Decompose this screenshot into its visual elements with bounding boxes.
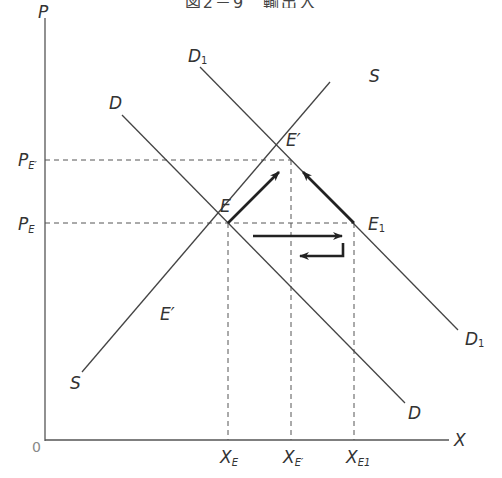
label-d-bottom: D [408, 403, 421, 423]
label-eprime-lower: E′ [160, 304, 175, 324]
x-axis-label: X [453, 430, 466, 450]
label-s-bottom: S [70, 373, 81, 393]
tick-label-pe: PE [18, 214, 35, 235]
demand-curve-d [122, 115, 405, 403]
tick-label-xe: XE [219, 447, 239, 468]
tick-label-pe-prime: PE′ [18, 150, 38, 171]
y-axis-label: P [38, 2, 49, 22]
label-point-eprime: E′ [286, 130, 301, 150]
supply-demand-chart: P X 0 S S D D D1 D1 E E′ E1 E′ PE′ PE XE… [0, 0, 502, 478]
label-d-top: D [109, 93, 122, 113]
label-point-e1: E1 [368, 214, 385, 234]
guide-lines [45, 160, 354, 440]
supply-curve-s [82, 82, 330, 372]
tick-label-xe1: XE1 [345, 447, 370, 468]
label-s-top: S [369, 66, 380, 86]
arrow-e1-to-eprime [303, 172, 354, 223]
label-d1-top: D1 [188, 46, 207, 66]
label-point-e: E [220, 196, 231, 216]
arrow-e-to-eprime [228, 172, 279, 223]
origin-label: 0 [32, 439, 41, 455]
label-d1-bottom: D1 [465, 329, 484, 349]
arrow-return-left [300, 243, 343, 256]
tick-label-xe-prime: XE′ [282, 447, 304, 468]
